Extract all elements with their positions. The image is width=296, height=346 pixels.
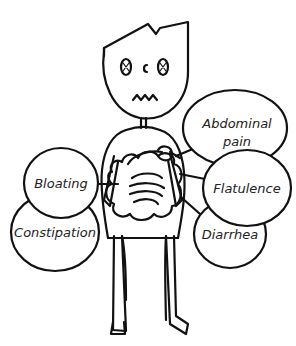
wavy-mouth — [133, 95, 157, 100]
svg-text:Constipation: Constipation — [14, 225, 96, 240]
bubble-flatulence: Flatulence — [203, 150, 291, 226]
svg-text:pain: pain — [222, 134, 251, 149]
bubble-bloating: Bloating — [24, 148, 98, 218]
left-eye — [121, 59, 131, 75]
svg-text:Bloating: Bloating — [34, 176, 88, 191]
figure-illustration: Constipation Bloating Diarrhea Abdominal… — [0, 0, 296, 346]
svg-text:Abdominal: Abdominal — [201, 116, 272, 131]
nose — [144, 65, 147, 72]
symptom-diagram: Constipation Bloating Diarrhea Abdominal… — [0, 0, 296, 346]
legs — [111, 236, 188, 334]
svg-text:Diarrhea: Diarrhea — [202, 227, 259, 242]
head — [103, 22, 188, 118]
svg-text:Flatulence: Flatulence — [213, 181, 280, 196]
right-eye — [158, 59, 168, 75]
